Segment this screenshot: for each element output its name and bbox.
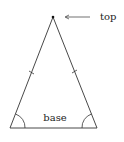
apex-point: [52, 16, 55, 19]
top-label: top: [100, 11, 116, 22]
base-label: base: [43, 112, 66, 123]
equal-side-tick-marks: [29, 70, 77, 74]
angle-arc-left: [16, 114, 26, 128]
isosceles-triangle-diagram: top base: [0, 0, 124, 142]
angle-arc-right: [82, 114, 92, 128]
top-pointer-arrow: [65, 15, 90, 19]
